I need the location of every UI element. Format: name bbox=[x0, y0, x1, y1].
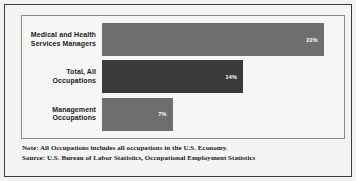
bar-value-label: 22% bbox=[306, 37, 324, 43]
bar-rows: Medical and Health Services Managers 22%… bbox=[22, 16, 344, 138]
category-label-line2: Occupations bbox=[22, 77, 96, 86]
category-label-line2: Occupations bbox=[22, 114, 96, 123]
footnote-source: Source: U.S. Bureau of Labor Statistics,… bbox=[22, 153, 342, 163]
footnotes: Note: All Occupations includes all occup… bbox=[22, 143, 342, 163]
bar-row-medical-health-services-managers: Medical and Health Services Managers 22% bbox=[22, 23, 344, 56]
category-label-line1: Total, All bbox=[22, 68, 96, 77]
figure-outer-border: Medical and Health Services Managers 22%… bbox=[4, 4, 352, 177]
bar-row-management-occupations: Management Occupations 7% bbox=[22, 98, 344, 131]
category-label-line2: Services Managers bbox=[22, 40, 96, 49]
bar-management-occupations: 7% bbox=[102, 98, 173, 131]
bar-track: 7% bbox=[102, 98, 344, 131]
chart-figure: Medical and Health Services Managers 22%… bbox=[0, 0, 356, 181]
bar-value-label: 14% bbox=[226, 74, 244, 80]
category-label-management-occupations: Management Occupations bbox=[22, 106, 102, 123]
bar-total-all-occupations: 14% bbox=[102, 60, 243, 93]
category-label-line1: Medical and Health bbox=[22, 31, 96, 40]
bar-track: 14% bbox=[102, 60, 344, 93]
bar-medical-health-services-managers: 22% bbox=[102, 23, 324, 56]
category-label-line1: Management bbox=[22, 106, 96, 115]
category-label-medical-health-services-managers: Medical and Health Services Managers bbox=[22, 31, 102, 48]
plot-area: Medical and Health Services Managers 22%… bbox=[21, 15, 345, 139]
footnote-note: Note: All Occupations includes all occup… bbox=[22, 143, 342, 153]
category-label-total-all-occupations: Total, All Occupations bbox=[22, 68, 102, 85]
bar-row-total-all-occupations: Total, All Occupations 14% bbox=[22, 60, 344, 93]
bar-value-label: 7% bbox=[158, 111, 172, 117]
bar-track: 22% bbox=[102, 23, 344, 56]
